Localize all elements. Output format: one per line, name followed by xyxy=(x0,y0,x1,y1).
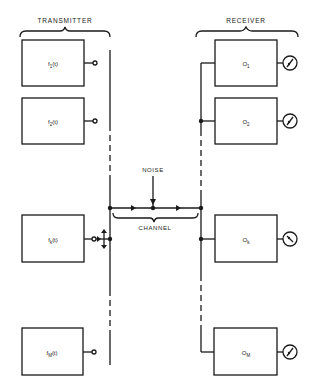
output-label-2: O2 xyxy=(242,119,250,127)
output-label-1: O1 xyxy=(242,61,250,69)
source-label-k: fk(t) xyxy=(48,237,58,245)
channel-label: CHANNEL xyxy=(139,225,172,231)
terminal-icon xyxy=(92,350,96,354)
transmitter-brace xyxy=(20,27,110,37)
source-label-2: f2(t) xyxy=(48,119,58,127)
noise-label: NOISE xyxy=(142,167,164,173)
transmitter-label: TRANSMITTER xyxy=(37,17,92,24)
terminal-icon xyxy=(92,237,96,241)
output-label-M: OM xyxy=(242,350,251,358)
source-label-1: f1(t) xyxy=(48,61,58,69)
source-label-M: fM(t) xyxy=(46,350,57,358)
receiver-label: RECEIVER xyxy=(226,17,266,24)
channel-brace xyxy=(113,213,198,222)
multiplex-diagram: TRANSMITTER RECEIVER NOISE CHANNEL f1(t)… xyxy=(0,0,316,386)
terminal-icon xyxy=(93,119,97,123)
terminal-icon xyxy=(93,61,97,65)
receiver-brace xyxy=(196,27,298,37)
output-label-k: Ok xyxy=(243,237,251,245)
